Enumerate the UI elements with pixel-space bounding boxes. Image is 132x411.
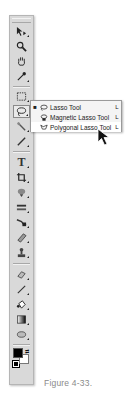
- eraser-tool-icon: [16, 269, 27, 280]
- figure-caption: Figure 4-33.: [44, 378, 92, 388]
- flyout-indicator-icon: [27, 226, 29, 228]
- flyout-item-label: Magnetic Lasso Tool: [50, 114, 113, 121]
- flyout-indicator-icon: [27, 35, 29, 37]
- move-tool-button[interactable]: [13, 25, 30, 38]
- healing-brush-icon: [16, 187, 27, 198]
- marquee-tool-button[interactable]: [13, 90, 30, 103]
- flyout-indicator-icon: [26, 114, 28, 116]
- toolbar-separator: [13, 263, 30, 265]
- zoom-tool-button[interactable]: [13, 40, 30, 53]
- tools-panel: T: [9, 15, 34, 385]
- hand-icon: [16, 56, 27, 67]
- flyout-indicator-icon: [27, 241, 29, 243]
- flyout-indicator-icon: [27, 166, 29, 168]
- selected-bullet-icon: ■: [31, 104, 39, 110]
- flyout-indicator-icon: [27, 80, 29, 82]
- flyout-indicator-icon: [27, 338, 29, 340]
- eyedropper-icon: [16, 71, 27, 82]
- crop-icon: [16, 172, 27, 183]
- spot-healing-tool-button[interactable]: [13, 186, 30, 199]
- ellipse-shape-icon: [16, 329, 27, 340]
- pencil-icon: [16, 284, 27, 295]
- eraser-icon: [16, 232, 27, 243]
- flyout-indicator-icon: [27, 308, 29, 310]
- flyout-indicator-icon: [27, 323, 29, 325]
- pencil-tool-button[interactable]: [13, 283, 30, 296]
- path-selection-tool-button[interactable]: [13, 231, 30, 244]
- flyout-indicator-icon: [27, 130, 29, 132]
- pen-tool-button[interactable]: [13, 216, 30, 229]
- toolbar-separator: [13, 344, 30, 346]
- flyout-indicator-icon: [27, 293, 29, 295]
- magnetic-lasso-icon: [39, 113, 48, 121]
- clone-stamp-tool-button[interactable]: [13, 246, 30, 259]
- crop-tool-button[interactable]: [13, 171, 30, 184]
- lasso-tool-button[interactable]: [13, 105, 30, 118]
- move-arrow-icon: [16, 26, 27, 37]
- clone-stamp-icon: [16, 247, 27, 258]
- flyout-indicator-icon: [27, 145, 29, 147]
- brush-icon: [16, 136, 27, 147]
- type-tool-button[interactable]: T: [13, 156, 30, 169]
- shape-tool-button[interactable]: [13, 328, 30, 341]
- flyout-indicator-icon: [27, 196, 29, 198]
- brush-tool-button[interactable]: [13, 135, 30, 148]
- gradient-icon: [16, 314, 27, 325]
- hand-tool-button[interactable]: [13, 55, 30, 68]
- shortcut-key: L: [113, 114, 121, 120]
- stamp-icon: [16, 202, 27, 213]
- flyout-item-label: Lasso Tool: [50, 104, 113, 111]
- panel-grip[interactable]: [12, 18, 31, 23]
- eraser-tool-button[interactable]: [13, 268, 30, 281]
- flyout-indicator-icon: [27, 181, 29, 183]
- paint-bucket-tool-button[interactable]: [13, 298, 30, 311]
- flyout-indicator-icon: [27, 211, 29, 213]
- toolbar-separator: [13, 86, 30, 88]
- quick-selection-tool-button[interactable]: [13, 120, 30, 133]
- flyout-indicator-icon: [27, 278, 29, 280]
- shortcut-key: L: [113, 104, 121, 110]
- polygonal-lasso-icon: [39, 123, 48, 131]
- shortcut-key: L: [113, 124, 121, 130]
- toolbar-separator: [13, 151, 30, 153]
- eyedropper-tool-button[interactable]: [13, 70, 30, 83]
- history-brush-tool-button[interactable]: [13, 201, 30, 214]
- foreground-color-swatch[interactable]: [13, 348, 23, 358]
- flyout-indicator-icon: [27, 256, 29, 258]
- paint-bucket-icon: [16, 299, 27, 310]
- type-icon: T: [17, 155, 25, 170]
- flyout-indicator-icon: [27, 100, 29, 102]
- rectangular-marquee-icon: [16, 91, 27, 102]
- flyout-item-lasso-tool[interactable]: ■ Lasso Tool L: [31, 102, 121, 112]
- gradient-tool-button[interactable]: [13, 313, 30, 326]
- pen-icon: [16, 217, 27, 228]
- flyout-item-magnetic-lasso-tool[interactable]: Magnetic Lasso Tool L: [31, 112, 121, 122]
- magic-wand-icon: [16, 121, 27, 132]
- color-swatches: ⇄: [13, 348, 31, 368]
- magnifier-icon: [16, 41, 27, 52]
- lasso-icon: [39, 103, 48, 111]
- mouse-pointer-icon: [97, 128, 111, 146]
